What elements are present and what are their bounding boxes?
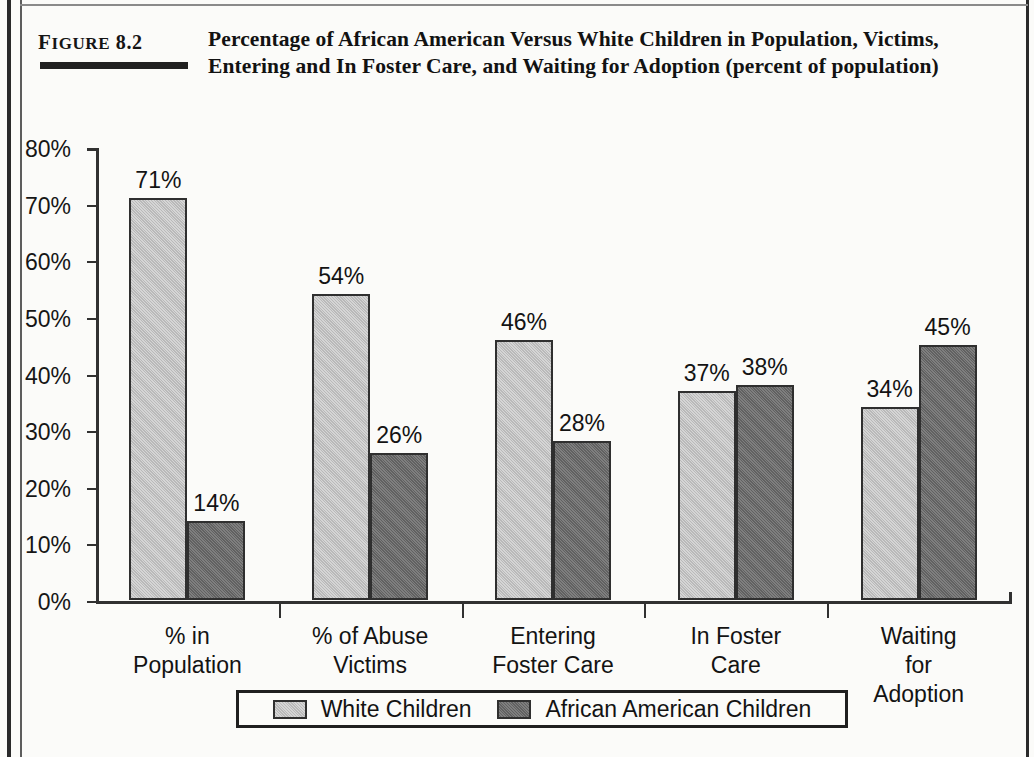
x-axis-tick [279,604,281,618]
bar-value-label: 26% [376,422,422,449]
y-axis-tick: 70% [87,205,96,207]
page-border-left-inner [20,0,22,757]
figure-number: 8.2 [116,31,143,53]
bar-value-label: 54% [318,263,364,290]
y-axis-tick: 30% [87,431,96,433]
y-axis-tick-label: 70% [25,192,71,219]
x-axis-category-label: Entering Foster Care [492,622,613,680]
figure-page: FIGURE 8.2 Percentage of African America… [0,0,1034,757]
y-axis-tick: 10% [87,544,96,546]
x-axis-category-label: % in Population [133,622,242,680]
bar-dark[interactable]: 14% [187,521,245,600]
figure-title: Percentage of African American Versus Wh… [208,26,988,79]
x-axis-category-label: % of Abuse Victims [312,622,428,680]
figure-label-rule [40,62,188,69]
y-axis-tick-label: 0% [38,589,71,616]
bar-light[interactable]: 37% [678,391,736,601]
bar-value-label: 46% [501,309,547,336]
bar-light[interactable]: 54% [312,294,370,600]
y-axis-tick-label: 20% [25,475,71,502]
bar-dark[interactable]: 28% [553,441,611,600]
x-axis-line [96,601,1012,604]
y-axis-tick-label: 50% [25,305,71,332]
bar-value-label: 38% [742,354,788,381]
x-axis-tick [827,604,829,618]
bar-light[interactable]: 71% [129,198,187,600]
page-border-right [1026,0,1029,757]
bar-value-label: 28% [559,410,605,437]
y-axis-tick-label: 80% [25,136,71,163]
y-axis-tick-label: 10% [25,532,71,559]
y-axis-line [96,148,99,604]
bar-value-label: 37% [684,360,730,387]
chart-plot-area: 0%10%20%30%40%50%60%70%80% 71%14%54%26%4… [96,148,1010,603]
legend-swatch-icon-white-children [273,700,307,719]
bar-light[interactable]: 46% [495,340,553,600]
x-axis-category-label: Waiting for Adoption [873,622,964,709]
figure-label-rest: IGURE [51,34,110,53]
y-axis-tick-label: 40% [25,362,71,389]
page-border-left [7,0,11,757]
x-axis-tick [644,604,646,618]
legend-item-african-american-children[interactable]: African American Children [497,696,811,723]
bar-value-label: 45% [925,314,971,341]
bar-value-label: 34% [867,376,913,403]
figure-label-prefix: F [38,30,51,54]
bar-dark[interactable]: 26% [370,453,428,600]
legend-label-white-children: White Children [321,696,472,723]
y-axis-tick: 40% [87,375,96,377]
x-axis-category-label: In Foster Care [690,622,781,680]
y-axis-tick: 0% [87,601,96,603]
figure-label: FIGURE 8.2 [38,30,188,55]
y-axis-tick: 50% [87,318,96,320]
y-axis-tick: 80% [87,148,96,150]
y-axis-tick-label: 60% [25,249,71,276]
y-axis-tick: 60% [87,261,96,263]
x-axis-right-cap [1009,592,1012,604]
chart-legend: White Children African American Children [236,690,848,728]
x-axis-tick [462,604,464,618]
legend-item-white-children[interactable]: White Children [273,696,472,723]
bar-light[interactable]: 34% [861,407,919,600]
y-axis-tick: 20% [87,488,96,490]
bar-dark[interactable]: 45% [919,345,977,600]
bar-dark[interactable]: 38% [736,385,794,600]
page-border-top [20,4,1028,6]
legend-swatch-icon-african-american-children [497,700,531,719]
bar-value-label: 71% [135,167,181,194]
y-axis-tick-label: 30% [25,419,71,446]
legend-label-african-american-children: African American Children [545,696,811,723]
bar-value-label: 14% [193,490,239,517]
